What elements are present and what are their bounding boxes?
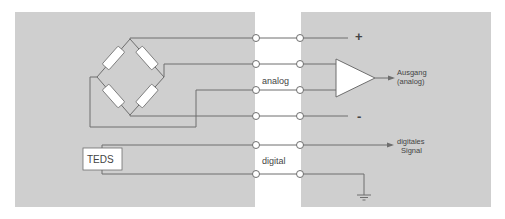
digital-signal-label-line1: digitales: [397, 137, 425, 146]
connector-left-2: [253, 61, 260, 68]
connector-left-3: [253, 87, 260, 94]
connector-left-1: [253, 35, 260, 42]
connector-left-4: [253, 113, 260, 120]
output-label-line2: (analog): [397, 77, 425, 86]
connector-left-6: [253, 171, 260, 178]
connector-right-2: [297, 61, 304, 68]
digital-label: digital: [262, 156, 286, 166]
plus-label: +: [355, 29, 363, 44]
connector-right-1: [297, 35, 304, 42]
output-label-line1: Ausgang: [397, 68, 427, 77]
connector-right-4: [297, 113, 304, 120]
digital-signal-label-line2: Signal: [401, 146, 422, 155]
connector-left-5: [253, 142, 260, 149]
minus-label: -: [357, 109, 361, 124]
connector-right-5: [297, 142, 304, 149]
sensor-wiring-diagram: + - analog digital Ausgang (analog) digi…: [0, 0, 505, 219]
connector-right-3: [297, 87, 304, 94]
teds-label: TEDS: [87, 154, 114, 165]
amplifier-panel: [301, 12, 491, 207]
analog-label: analog: [262, 76, 289, 86]
connector-right-6: [297, 171, 304, 178]
